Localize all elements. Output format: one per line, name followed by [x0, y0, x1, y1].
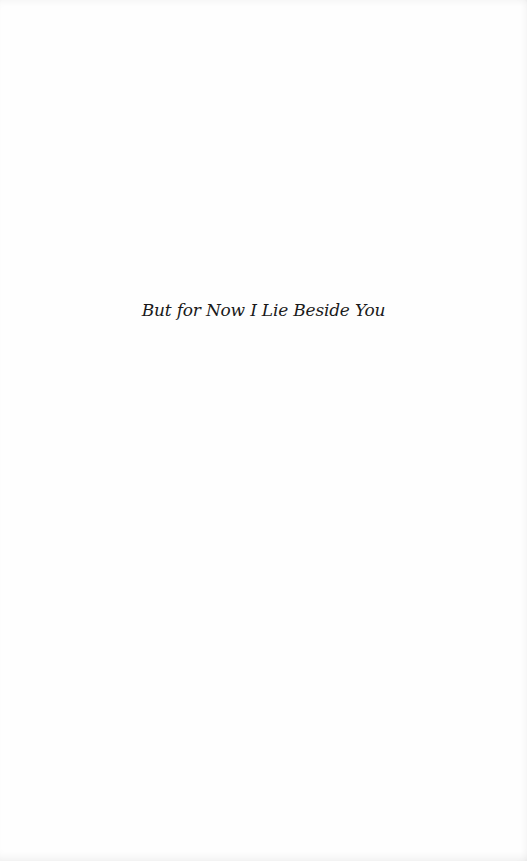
- book-page: But for Now I Lie Beside You: [0, 0, 527, 861]
- half-title: But for Now I Lie Beside You: [0, 297, 527, 323]
